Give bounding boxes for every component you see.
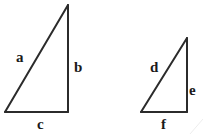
triangles-drawing xyxy=(0,0,203,134)
side-label-f: f xyxy=(161,117,166,132)
side-label-e: e xyxy=(189,83,196,98)
side-label-c: c xyxy=(37,117,44,132)
side-label-a: a xyxy=(16,50,24,65)
side-label-b: b xyxy=(74,60,82,75)
side-label-d: d xyxy=(150,60,158,75)
geometry-figure: a b c d e f xyxy=(0,0,203,134)
